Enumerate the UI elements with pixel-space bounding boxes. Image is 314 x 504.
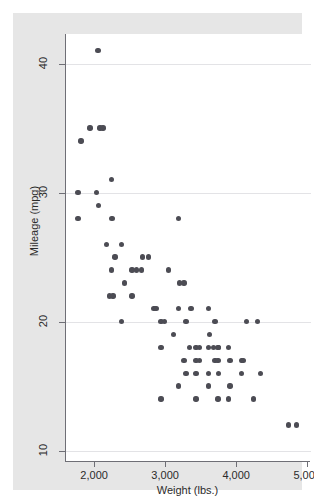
data-point (226, 345, 231, 350)
y-tick-label-40: 40 (37, 50, 49, 76)
x-tick-mark-2000 (94, 461, 95, 467)
data-point (193, 396, 198, 401)
data-point (215, 396, 220, 401)
x-tick-label-2000: 2,000 (64, 469, 124, 481)
y-axis-line (65, 34, 66, 461)
data-point (193, 371, 198, 376)
data-point (240, 358, 245, 363)
graph-figure: 10203040 2,0003,0004,0005,000 Mileage (m… (13, 13, 302, 490)
data-point (158, 345, 163, 350)
data-point (94, 190, 99, 195)
data-point (206, 371, 211, 376)
data-point (158, 396, 163, 401)
data-point (129, 293, 134, 298)
data-point (104, 242, 109, 247)
data-point (176, 306, 181, 311)
y-tick-mark-40 (59, 64, 65, 65)
gridline-y-40 (66, 64, 311, 65)
data-point (212, 319, 217, 324)
data-point (197, 345, 202, 350)
data-point (140, 254, 145, 259)
gridline-y-30 (66, 193, 311, 194)
x-tick-label-5000: 5,000 (277, 469, 314, 481)
x-axis-title: Weight (lbs.) (65, 484, 310, 496)
data-point (100, 125, 105, 130)
data-point (87, 125, 92, 130)
data-point (112, 254, 117, 259)
data-point (239, 371, 244, 376)
clipped-top-strip: · · · (0, 0, 314, 11)
data-point (226, 396, 231, 401)
data-point (153, 306, 158, 311)
data-point (95, 48, 100, 53)
data-point (139, 267, 144, 272)
y-tick-mark-20 (59, 322, 65, 323)
data-point (119, 319, 124, 324)
data-point (197, 358, 202, 363)
data-point (75, 190, 80, 195)
x-axis-line (65, 461, 310, 462)
data-point (119, 242, 124, 247)
data-point (244, 319, 249, 324)
data-point (109, 216, 114, 221)
ghost-text: · · · (6, 0, 28, 3)
data-point (216, 345, 221, 350)
x-tick-label-4000: 4,000 (206, 469, 266, 481)
data-point (216, 371, 221, 376)
data-point (181, 280, 186, 285)
data-point (215, 358, 220, 363)
x-tick-mark-4000 (236, 461, 237, 467)
gridline-y-10 (66, 451, 311, 452)
data-point (181, 358, 186, 363)
data-point (286, 422, 291, 427)
data-point (109, 267, 114, 272)
y-tick-label-10: 10 (37, 437, 49, 463)
data-point (75, 216, 80, 221)
data-point (183, 319, 188, 324)
y-tick-mark-30 (59, 193, 65, 194)
plot-panel (65, 34, 310, 461)
data-point (187, 345, 192, 350)
y-axis-title: Mileage (mpg) (28, 161, 40, 281)
data-point (176, 216, 181, 221)
x-tick-label-3000: 3,000 (135, 469, 195, 481)
x-tick-mark-5000 (307, 461, 308, 467)
y-tick-label-20: 20 (37, 308, 49, 334)
data-point (258, 371, 263, 376)
data-point (251, 396, 256, 401)
data-point (227, 358, 232, 363)
data-point (110, 293, 115, 298)
data-point (96, 203, 101, 208)
data-point (206, 383, 211, 388)
data-point (183, 371, 188, 376)
data-point (207, 332, 212, 337)
data-point (109, 177, 114, 182)
data-point (166, 267, 171, 272)
data-point (227, 383, 232, 388)
data-point (206, 306, 211, 311)
data-point (78, 138, 83, 143)
data-point (255, 319, 260, 324)
scatter-plot-screenshot: · · · 10203040 2,0003,0004,0005,000 Mile… (0, 0, 314, 504)
y-tick-mark-10 (59, 451, 65, 452)
data-point (146, 254, 151, 259)
data-point (176, 383, 181, 388)
data-point (294, 422, 299, 427)
data-point (162, 319, 167, 324)
data-point (188, 306, 193, 311)
data-point (122, 280, 127, 285)
x-tick-mark-3000 (165, 461, 166, 467)
data-point (171, 332, 176, 337)
